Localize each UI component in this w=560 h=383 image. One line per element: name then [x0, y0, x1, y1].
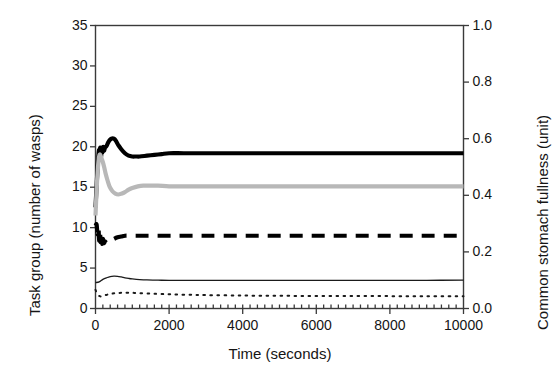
y-tick-label-left: 30 — [42, 57, 88, 73]
y-tick-label-left: 35 — [42, 17, 88, 33]
y-tick-label-left: 15 — [42, 178, 88, 194]
series-line-task-group-thick-solid-black — [96, 138, 464, 207]
y-tick-label-left: 5 — [42, 259, 88, 275]
y-tick-label-right: 0.8 — [473, 73, 519, 89]
y-tick-label-left: 10 — [42, 219, 88, 235]
y-axis-left-title: Task group (number of wasps) — [26, 114, 43, 316]
data-series-group — [96, 138, 464, 296]
y-tick-label-left: 25 — [42, 97, 88, 113]
chart-figure: Task group (number of wasps) Common stom… — [0, 0, 560, 383]
y-tick-label-left: 20 — [42, 138, 88, 154]
axis-ticks — [90, 26, 469, 315]
series-line-task-group-thin-solid-black — [96, 276, 464, 282]
y-tick-label-left: 0 — [42, 300, 88, 316]
y-tick-label-right: 0.2 — [473, 243, 519, 259]
x-tick-label: 8000 — [350, 317, 430, 333]
y-tick-label-right: 0.0 — [473, 300, 519, 316]
series-line-common-stomach-fullness-dotted-black — [96, 290, 464, 297]
plot-frame — [96, 26, 464, 309]
series-line-task-group-thick-dashed-black — [96, 224, 464, 244]
x-axis-title: Time (seconds) — [0, 345, 560, 362]
y-tick-label-right: 1.0 — [473, 17, 519, 33]
series-line-task-group-thick-solid-grey — [96, 155, 464, 216]
y-tick-label-right: 0.4 — [473, 186, 519, 202]
y-axis-right-title: Common stomach fullness (unit) — [534, 115, 551, 330]
plot-border — [96, 26, 464, 309]
y-tick-label-right: 0.6 — [473, 130, 519, 146]
x-tick-label: 0 — [56, 317, 136, 333]
x-tick-label: 2000 — [129, 317, 209, 333]
x-tick-label: 6000 — [276, 317, 356, 333]
x-tick-label: 4000 — [203, 317, 283, 333]
x-tick-label: 10000 — [424, 317, 504, 333]
